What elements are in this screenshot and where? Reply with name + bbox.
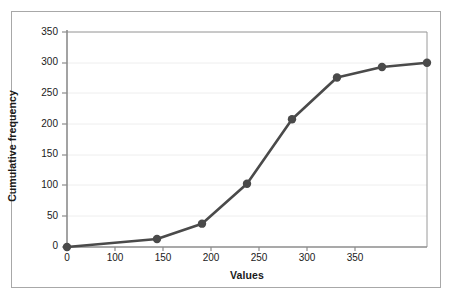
data-point: [378, 63, 386, 71]
plot-canvas: [0, 0, 452, 302]
data-point: [333, 73, 341, 81]
data-point: [198, 219, 206, 227]
gridlines: [67, 32, 427, 216]
data-point: [423, 59, 431, 67]
data-point: [63, 243, 71, 251]
cumulative-frequency-chart: Cumulative frequency Values 350 300 250 …: [0, 0, 452, 302]
data-point: [288, 115, 296, 123]
data-point: [243, 180, 251, 188]
plot-frame: [67, 32, 427, 247]
data-point: [153, 235, 161, 243]
